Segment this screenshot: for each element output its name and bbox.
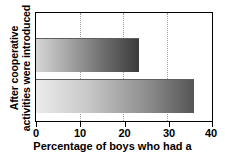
x-tick-label-40: 40 (205, 127, 217, 140)
x-axis-title: Percentage of boys who had a (0, 140, 225, 153)
x-tick-label-30: 30 (163, 127, 175, 140)
y-axis-title-line-2: activities were introduced (20, 5, 33, 131)
y-axis-title-line-1: After cooperative (8, 26, 21, 111)
bar-1 (36, 38, 139, 72)
bar-chart: After cooperative activities were introd… (0, 0, 225, 154)
x-tick-label-10: 10 (74, 127, 86, 140)
plot-area (35, 12, 213, 122)
bar-2 (36, 79, 194, 113)
x-tick-label-20: 20 (118, 127, 130, 140)
x-tick-label-0: 0 (33, 127, 39, 140)
y-axis-title: After cooperative activities were introd… (7, 3, 33, 133)
